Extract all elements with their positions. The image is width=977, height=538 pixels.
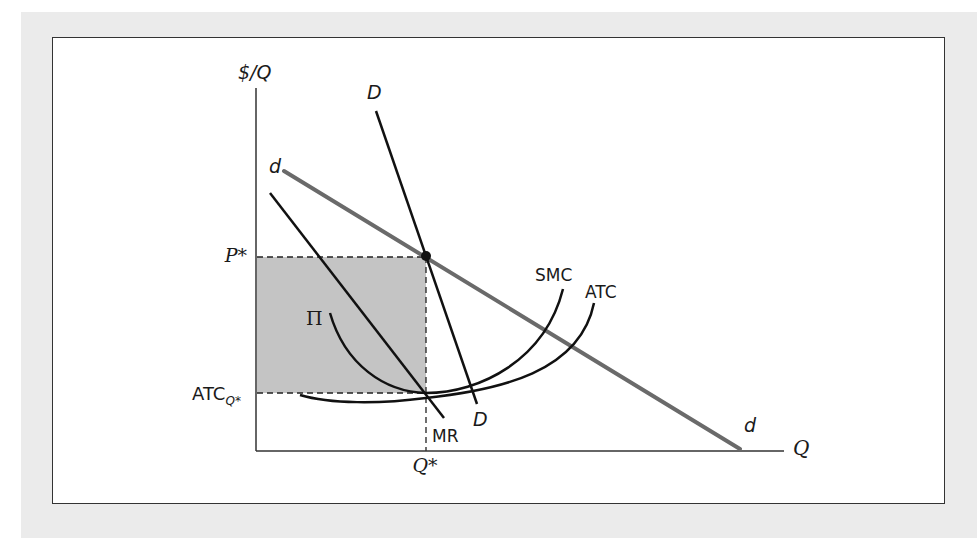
profit-label: Π [306, 307, 323, 329]
atc-label-main: ATC [192, 383, 225, 404]
atc-curve-label: ATC [585, 282, 617, 302]
equilibrium-point [421, 251, 431, 261]
x-axis-label: Q [793, 436, 809, 460]
p-star-label: P* [224, 244, 248, 266]
d-bottom-label: d [744, 414, 757, 436]
profit-area [257, 257, 426, 393]
q-star-label: Q* [412, 454, 438, 476]
D-bottom-label: D [473, 408, 488, 430]
smc-label: SMC [535, 265, 572, 285]
y-axis-label: $/Q [238, 61, 271, 83]
D-top-label: D [367, 81, 382, 103]
atc-label-subscript: Q* [225, 394, 240, 408]
economics-diagram: $/Q Q P* ATCQ* Q* Π D D d d MR SMC ATC [0, 0, 977, 538]
atc-q-star-label: ATCQ* [192, 383, 241, 408]
d-top-label: d [269, 155, 282, 177]
mr-label: MR [432, 426, 459, 446]
